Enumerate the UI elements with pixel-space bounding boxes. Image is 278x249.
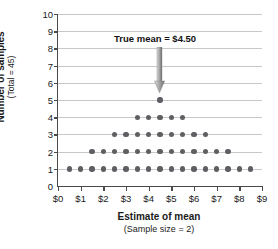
y-axis-title: Number of samples (Total = 45) <box>0 7 30 147</box>
y-tick-mark <box>54 152 58 153</box>
data-dot <box>146 149 151 154</box>
data-dot <box>169 132 174 137</box>
data-dot <box>180 132 185 137</box>
x-axis-title: Estimate of mean (Sample size = 2) <box>57 211 261 235</box>
data-dot <box>169 115 174 120</box>
data-dot <box>146 166 151 171</box>
data-dot <box>203 166 208 171</box>
data-dot <box>169 166 174 171</box>
x-tick-mark <box>81 186 82 191</box>
x-axis-title-main: Estimate of mean <box>57 211 261 224</box>
data-dot <box>146 115 151 120</box>
data-dot <box>135 166 140 171</box>
data-dot <box>89 166 94 171</box>
y-tick-label: 5 <box>48 95 53 106</box>
data-dot <box>157 166 162 171</box>
x-tick-mark <box>58 186 59 191</box>
x-tick-mark <box>239 186 240 191</box>
x-tick-label: $1 <box>75 193 86 204</box>
data-dot <box>169 149 174 154</box>
x-tick-mark <box>149 186 150 191</box>
x-tick-label: $4 <box>143 193 154 204</box>
data-dot <box>146 132 151 137</box>
x-tick-mark <box>262 186 263 191</box>
data-dot <box>248 166 253 171</box>
data-dot <box>123 149 128 154</box>
x-tick-mark <box>217 186 218 191</box>
data-dot <box>191 149 196 154</box>
y-tick-mark <box>54 100 58 101</box>
x-axis-title-sub: (Sample size = 2) <box>57 224 261 235</box>
y-tick-label: 4 <box>48 112 53 123</box>
y-tick-mark <box>54 14 58 15</box>
y-tick-label: 9 <box>48 26 53 37</box>
y-tick-label: 7 <box>48 60 53 71</box>
data-dot <box>157 149 162 154</box>
data-dot <box>101 166 106 171</box>
x-tick-label: $8 <box>234 193 245 204</box>
data-dot <box>237 166 242 171</box>
true-mean-annotation: True mean = $4.50 <box>114 33 196 44</box>
data-dot <box>112 166 117 171</box>
data-dot <box>89 149 94 154</box>
data-dot <box>203 132 208 137</box>
data-dot <box>123 166 128 171</box>
y-tick-label: 1 <box>48 163 53 174</box>
dot-plot-figure: Number of samples (Total = 45) 012345678… <box>0 0 278 249</box>
y-axis-title-sub: (Total = 45) <box>7 7 16 147</box>
data-dot <box>101 149 106 154</box>
data-dot <box>157 115 162 120</box>
data-dot <box>112 149 117 154</box>
data-dot <box>214 149 219 154</box>
y-tick-mark <box>54 169 58 170</box>
data-dot <box>135 132 140 137</box>
x-tick-label: $7 <box>211 193 222 204</box>
data-dot <box>78 166 83 171</box>
y-tick-label: 2 <box>48 146 53 157</box>
y-tick-mark <box>54 66 58 67</box>
y-tick-mark <box>54 83 58 84</box>
data-dot <box>225 166 230 171</box>
y-tick-label: 8 <box>48 43 53 54</box>
x-tick-label: $9 <box>257 193 268 204</box>
data-dot <box>157 132 162 137</box>
gridline <box>58 14 262 15</box>
y-tick-label: 0 <box>48 181 53 192</box>
x-tick-label: $2 <box>98 193 109 204</box>
data-dot <box>180 149 185 154</box>
data-dot <box>67 166 72 171</box>
data-dot <box>135 149 140 154</box>
y-tick-mark <box>54 134 58 135</box>
data-dot <box>157 97 162 102</box>
x-tick-label: $3 <box>121 193 132 204</box>
data-dot <box>225 149 230 154</box>
y-tick-mark <box>54 31 58 32</box>
data-dot <box>203 149 208 154</box>
x-tick-label: $0 <box>53 193 64 204</box>
data-dot <box>214 166 219 171</box>
x-tick-mark <box>103 186 104 191</box>
true-mean-arrow-icon <box>154 47 165 93</box>
data-dot <box>191 132 196 137</box>
data-dot <box>180 115 185 120</box>
data-dot <box>135 115 140 120</box>
data-dot <box>180 166 185 171</box>
x-tick-mark <box>171 186 172 191</box>
x-tick-mark <box>126 186 127 191</box>
data-dot <box>112 132 117 137</box>
x-tick-mark <box>194 186 195 191</box>
y-tick-mark <box>54 48 58 49</box>
y-tick-mark <box>54 117 58 118</box>
y-tick-label: 3 <box>48 129 53 140</box>
data-dot <box>191 166 196 171</box>
x-tick-label: $5 <box>166 193 177 204</box>
y-tick-label: 6 <box>48 77 53 88</box>
x-tick-label: $6 <box>189 193 200 204</box>
y-tick-label: 10 <box>42 9 53 20</box>
data-dot <box>123 132 128 137</box>
